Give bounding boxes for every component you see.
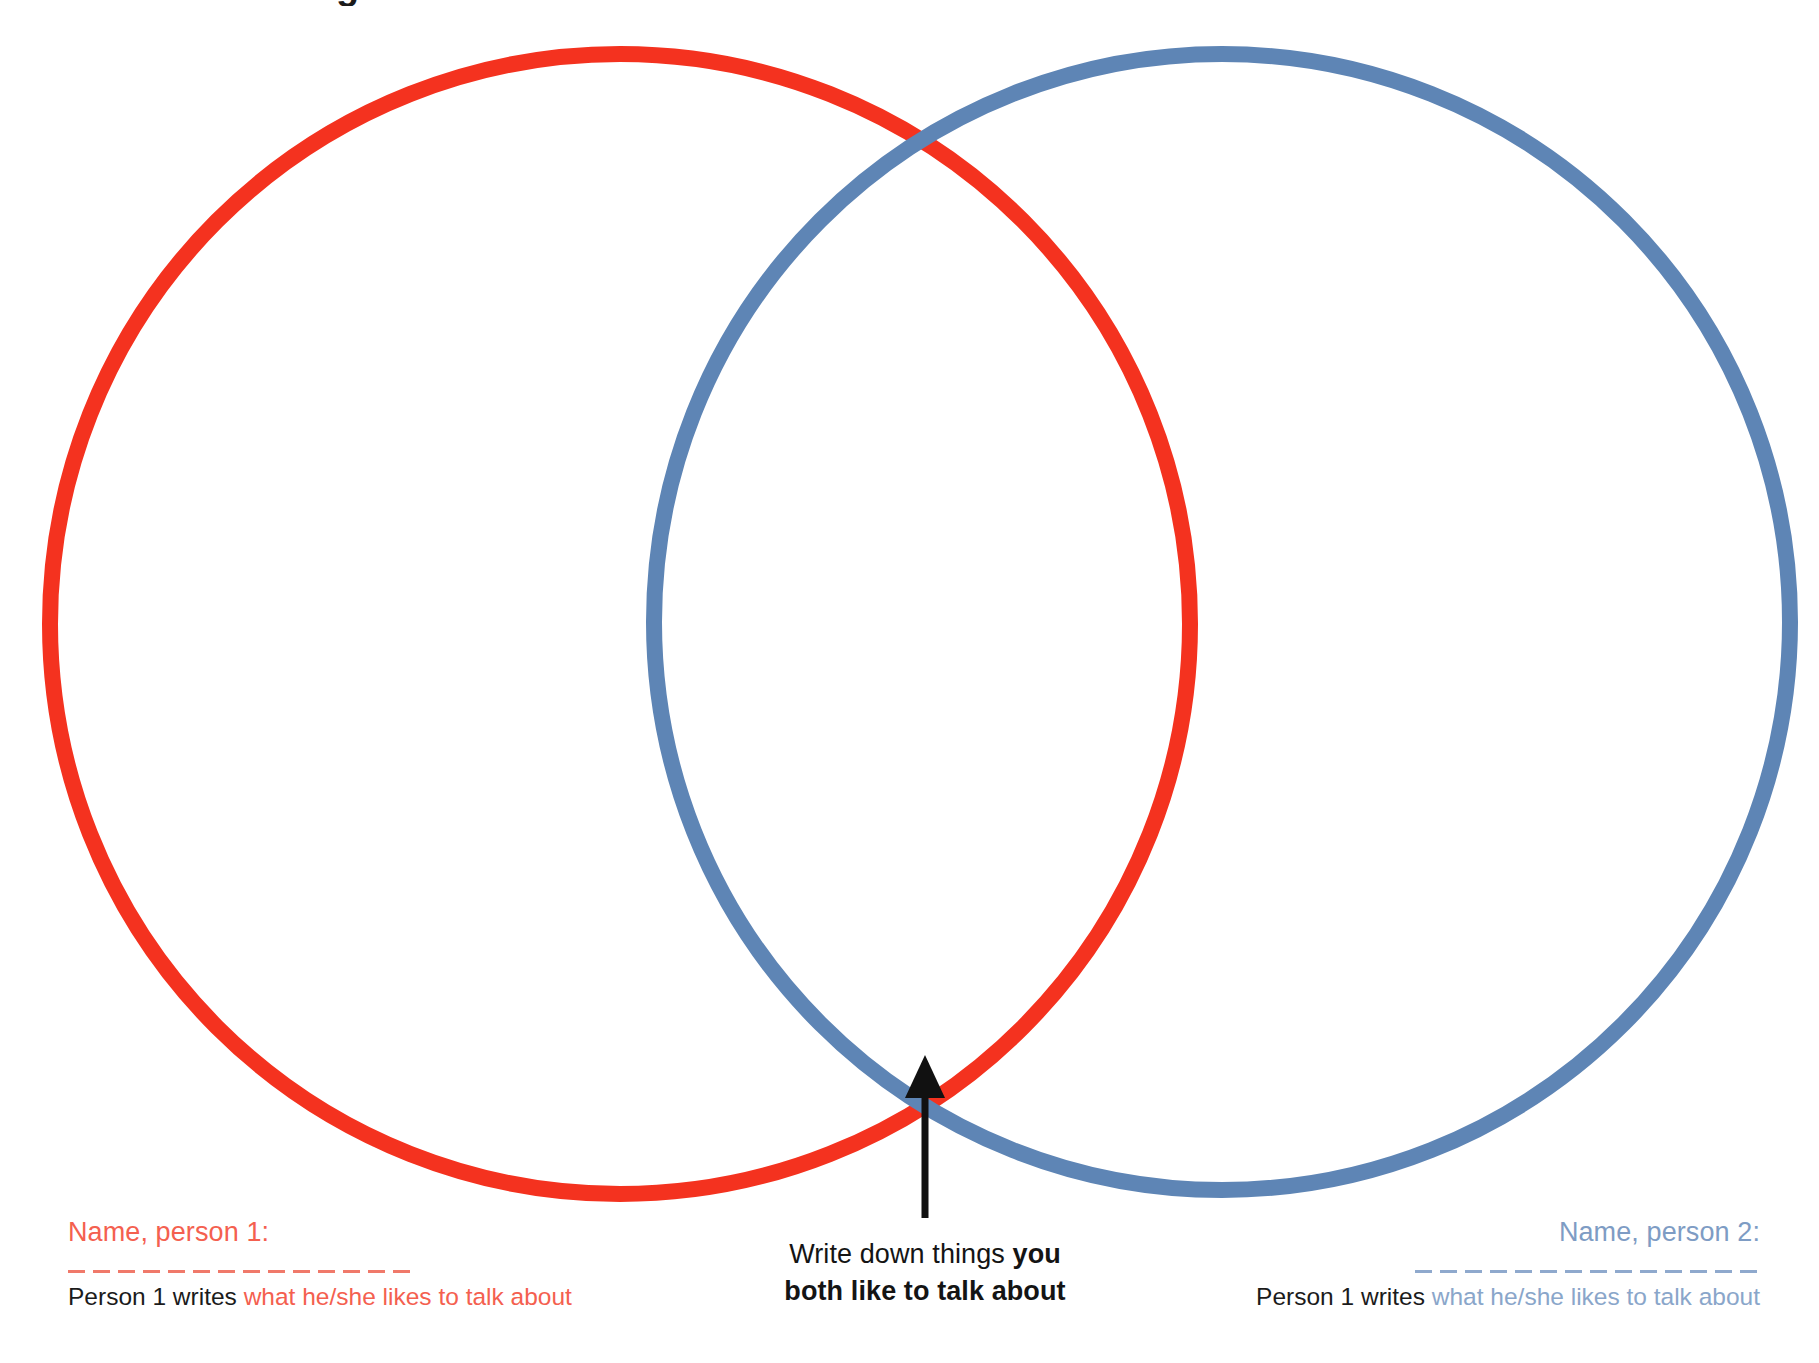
pointer-to-overlap-icon bbox=[905, 1055, 945, 1218]
person-1-circle bbox=[50, 54, 1190, 1194]
person-2-entry: Name, person 2: Person 1 writes what he/… bbox=[1040, 1216, 1760, 1312]
venn-diagram bbox=[0, 0, 1819, 1363]
person-2-instruction: Person 1 writes what he/she likes to tal… bbox=[1040, 1282, 1760, 1312]
person-1-instruction-hint: what he/she likes to talk about bbox=[244, 1283, 572, 1310]
person-2-name-label: Name, person 2: bbox=[1040, 1216, 1760, 1248]
person-1-entry: Name, person 1: Person 1 writes what he/… bbox=[68, 1216, 628, 1312]
person-1-name-input[interactable] bbox=[68, 1270, 413, 1273]
person-1-name-label: Name, person 1: bbox=[68, 1216, 628, 1248]
worksheet-page: Things we like to talk about Name, perso… bbox=[0, 0, 1819, 1363]
person-2-name-input[interactable] bbox=[1415, 1270, 1760, 1273]
person-2-instruction-prefix: Person 1 writes bbox=[1256, 1283, 1432, 1310]
person-2-circle bbox=[654, 54, 1790, 1190]
person-2-instruction-hint: what he/she likes to talk about bbox=[1432, 1283, 1760, 1310]
overlap-instruction-line1-plain: Write down things bbox=[789, 1239, 1012, 1269]
overlap-instruction-line2-bold: both like to talk about bbox=[784, 1276, 1065, 1306]
person-1-instruction: Person 1 writes what he/she likes to tal… bbox=[68, 1282, 628, 1312]
person-1-instruction-prefix: Person 1 writes bbox=[68, 1283, 244, 1310]
